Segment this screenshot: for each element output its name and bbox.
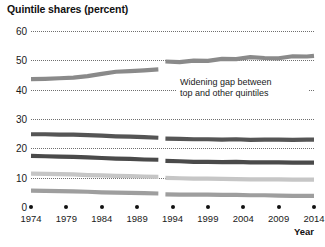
widening-gap-annotation: Widening gap between top and other quint… — [176, 75, 308, 103]
y-tick-label-0: 0 — [21, 202, 27, 213]
series-line-1-seg-1 — [165, 139, 314, 140]
series-line-3-seg-0 — [31, 174, 158, 177]
series-line-0-seg-1 — [165, 56, 314, 62]
series-line-0-seg-0 — [31, 69, 158, 79]
x-tick-label-2009: 2009 — [268, 213, 289, 224]
y-tick-label-30: 30 — [16, 114, 27, 125]
x-tick-dot-1994 — [171, 205, 175, 209]
x-tick-label-1989: 1989 — [127, 213, 148, 224]
x-tick-dot-1989 — [135, 205, 139, 209]
x-tick-label-2014: 2014 — [303, 213, 324, 224]
y-tick-label-50: 50 — [16, 55, 27, 66]
annotation-line-1: Widening gap between — [180, 77, 304, 88]
x-tick-dot-1984 — [100, 205, 104, 209]
x-tick-dot-2014 — [312, 205, 316, 209]
x-tick-label-2004: 2004 — [233, 213, 254, 224]
series-line-4-seg-1 — [165, 194, 314, 195]
y-tick-label-20: 20 — [16, 143, 27, 154]
x-tick-dot-2004 — [241, 205, 245, 209]
y-tick-label-10: 10 — [16, 172, 27, 183]
plot-area: 0102030405060 19741979198419891994199920… — [31, 31, 314, 207]
annotation-line-2: top and other quintiles — [180, 88, 304, 99]
series-line-2-seg-0 — [31, 156, 158, 160]
x-axis-label: Year — [294, 226, 314, 237]
x-tick-label-1999: 1999 — [197, 213, 218, 224]
x-tick-dot-1999 — [206, 205, 210, 209]
series-line-2-seg-1 — [165, 161, 314, 163]
x-tick-label-1994: 1994 — [162, 213, 183, 224]
y-tick-label-60: 60 — [16, 26, 27, 37]
x-tick-dot-1974 — [29, 205, 33, 209]
x-tick-dot-2009 — [277, 205, 281, 209]
x-tick-dot-1979 — [64, 205, 68, 209]
series-line-4-seg-0 — [31, 191, 158, 194]
chart-title: Quintile shares (percent) — [7, 3, 128, 15]
x-tick-label-1984: 1984 — [91, 213, 112, 224]
series-line-1-seg-0 — [31, 134, 158, 138]
y-tick-label-40: 40 — [16, 84, 27, 95]
series-line-3-seg-1 — [165, 178, 314, 180]
x-tick-label-1979: 1979 — [56, 213, 77, 224]
data-series-group — [31, 31, 314, 207]
x-tick-label-1974: 1974 — [20, 213, 41, 224]
